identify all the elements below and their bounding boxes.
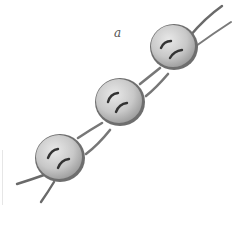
button-top	[150, 24, 198, 70]
button-top-face	[151, 25, 195, 67]
cord-bottom-tail-2	[41, 182, 54, 202]
cord-top-tail-2	[196, 22, 231, 46]
cord-segment-1a	[140, 68, 160, 84]
button-middle-face	[96, 79, 142, 123]
cord-segment-2a	[78, 123, 102, 138]
edge-divider	[2, 150, 3, 205]
figure-label: a	[114, 27, 121, 39]
button-bottom	[35, 134, 85, 182]
button-bottom-face	[36, 135, 82, 179]
cord-bottom-tail-1	[17, 175, 44, 184]
cord-segment-2b	[86, 130, 110, 154]
button-middle	[95, 78, 145, 126]
